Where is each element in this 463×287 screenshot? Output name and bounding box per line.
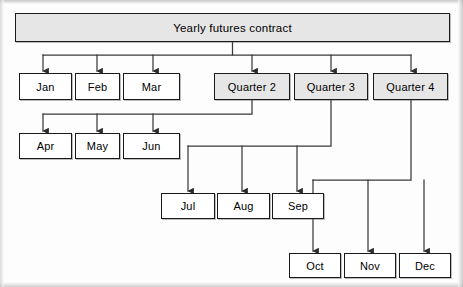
node-mar[interactable]: Mar xyxy=(123,73,180,100)
node-quarter-2[interactable]: Quarter 2 xyxy=(214,73,290,100)
node-nov[interactable]: Nov xyxy=(344,253,396,278)
node-oct[interactable]: Oct xyxy=(289,253,341,278)
node-dec[interactable]: Dec xyxy=(399,253,451,278)
node-label: Mar xyxy=(142,81,162,93)
node-quarter-4[interactable]: Quarter 4 xyxy=(373,73,448,100)
node-label: Apr xyxy=(37,140,55,152)
node-jul[interactable]: Jul xyxy=(161,193,215,219)
node-label: Feb xyxy=(88,81,108,93)
node-label: Quarter 4 xyxy=(386,81,434,93)
node-jun[interactable]: Jun xyxy=(123,133,180,159)
node-may[interactable]: May xyxy=(75,133,120,159)
node-quarter-3[interactable]: Quarter 3 xyxy=(294,73,368,100)
node-label: Sep xyxy=(288,200,308,212)
node-label: Dec xyxy=(415,260,435,272)
node-label: Jun xyxy=(142,140,160,152)
node-label: Yearly futures contract xyxy=(173,22,292,34)
node-apr[interactable]: Apr xyxy=(19,133,72,159)
node-label: Oct xyxy=(306,260,324,272)
node-label: Jan xyxy=(36,81,54,93)
wire-q3-stem xyxy=(188,100,331,146)
node-sep[interactable]: Sep xyxy=(272,193,324,219)
node-yearly-futures-contract[interactable]: Yearly futures contract xyxy=(15,13,450,42)
node-label: Aug xyxy=(233,200,253,212)
node-label: Jul xyxy=(181,200,196,212)
node-label: Nov xyxy=(360,260,380,272)
diagram-canvas: Yearly futures contract Jan Feb Mar Quar… xyxy=(0,0,463,287)
node-label: Quarter 3 xyxy=(307,81,355,93)
node-label: Quarter 2 xyxy=(228,81,276,93)
wire-q2-stem xyxy=(43,100,252,114)
node-label: May xyxy=(87,140,108,152)
node-jan[interactable]: Jan xyxy=(19,73,72,100)
node-aug[interactable]: Aug xyxy=(217,193,270,219)
wire-q4-stem xyxy=(313,100,411,180)
node-feb[interactable]: Feb xyxy=(75,73,120,100)
